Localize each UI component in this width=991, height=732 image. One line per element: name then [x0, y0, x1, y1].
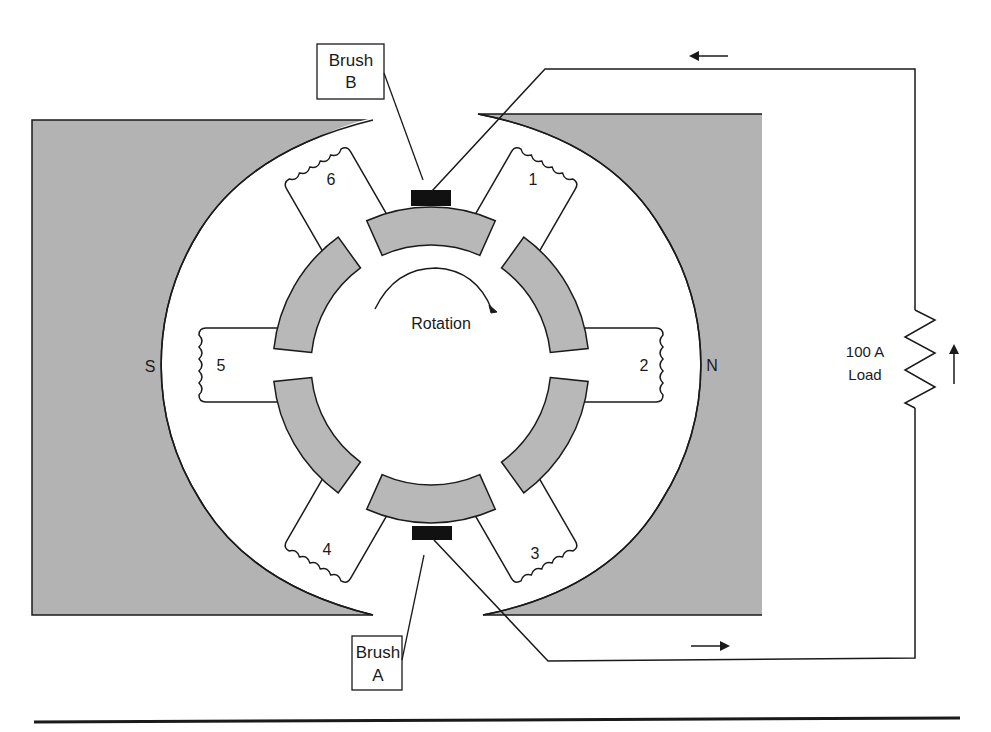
arrow-right-icon — [691, 641, 730, 651]
coil-5 — [199, 328, 281, 402]
bottom-rule — [34, 718, 960, 722]
arrow-left-icon — [689, 51, 728, 61]
brush-a — [412, 526, 452, 540]
coil-5-label: 5 — [217, 357, 226, 374]
load-label-line2: Load — [848, 366, 881, 383]
coil-6-label: 6 — [327, 171, 336, 188]
load-resistor — [905, 310, 935, 408]
arrow-up-icon — [949, 344, 959, 384]
north-pole-label: N — [706, 357, 718, 374]
coil-4-label: 4 — [323, 541, 332, 558]
brush-b-label-line1: Brush — [329, 51, 373, 70]
coil-1-label: 1 — [529, 171, 538, 188]
load-label-line1: 100 A — [846, 343, 884, 360]
brush-b — [411, 190, 451, 206]
dc-generator-diagram: Brush B Brush A S N 1 2 3 4 5 6 Rotation… — [0, 0, 991, 732]
brush-a-label-line2: A — [372, 666, 384, 685]
coil-3-label: 3 — [531, 545, 540, 562]
south-pole-label: S — [145, 358, 156, 375]
rotation-label: Rotation — [411, 315, 471, 332]
brush-b-label-line2: B — [345, 73, 356, 92]
coil-2-label: 2 — [640, 357, 649, 374]
coil-2 — [581, 328, 663, 402]
brush-a-label-line1: Brush — [356, 643, 400, 662]
